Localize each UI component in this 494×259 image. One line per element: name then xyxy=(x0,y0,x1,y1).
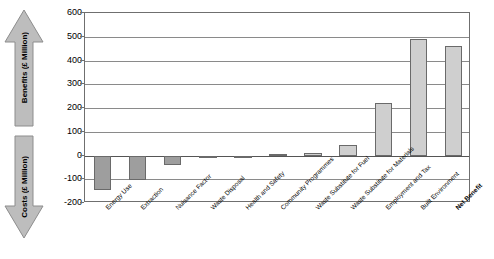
axis-direction-arrows: Benefits (£ Million) Costs (£ Million) xyxy=(2,8,46,240)
chart-root: Benefits (£ Million) Costs (£ Million) 6… xyxy=(0,0,494,259)
bar xyxy=(445,46,463,155)
y-axis-ticks: 6005004003002001000-100-200 xyxy=(42,12,82,202)
y-tick-mark-400 xyxy=(80,60,84,61)
y-tick-label--200: -200 xyxy=(48,198,82,207)
y-axis-tick-marks xyxy=(80,12,85,202)
y-tick-mark-200 xyxy=(80,107,84,108)
x-axis-labels: Energy UseExtractionNuisance FactorWaste… xyxy=(84,204,484,259)
y-tick-label-500: 500 xyxy=(48,31,82,40)
bar xyxy=(269,154,287,156)
y-tick-label--100: -100 xyxy=(48,174,82,183)
y-tick-label-100: 100 xyxy=(48,126,82,135)
benefits-arrow: Benefits (£ Million) xyxy=(2,8,46,128)
y-tick-mark--100 xyxy=(80,178,84,179)
y-tick-mark-600 xyxy=(80,12,84,13)
y-tick-mark--200 xyxy=(80,202,84,203)
bar xyxy=(199,156,217,158)
y-tick-label-300: 300 xyxy=(48,79,82,88)
bar xyxy=(375,103,393,155)
y-tick-mark-300 xyxy=(80,83,84,84)
y-tick-mark-0 xyxy=(80,155,84,156)
bar xyxy=(94,156,112,190)
arrow-up-icon xyxy=(2,8,46,128)
costs-arrow: Costs (£ Million) xyxy=(2,134,46,240)
y-tick-label-200: 200 xyxy=(48,103,82,112)
bar xyxy=(339,145,357,156)
bar xyxy=(410,39,428,155)
y-tick-mark-100 xyxy=(80,131,84,132)
y-tick-label-0: 0 xyxy=(48,150,82,159)
bar xyxy=(304,153,322,155)
bar xyxy=(234,156,252,158)
bar xyxy=(164,156,182,166)
bar xyxy=(129,156,147,181)
y-tick-label-600: 600 xyxy=(48,8,82,17)
y-tick-mark-500 xyxy=(80,36,84,37)
arrow-down-icon xyxy=(2,134,46,240)
y-tick-label-400: 400 xyxy=(48,55,82,64)
